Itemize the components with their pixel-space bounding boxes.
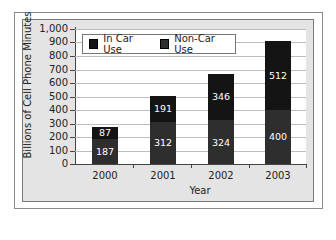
bar-2000: 87187 [92,127,118,164]
x-axis-title: Year [170,185,230,196]
legend: In Car Use Non-Car Use [82,34,236,54]
x-tick-label: 2000 [85,170,125,181]
legend-label-non-car: Non-Car Use [174,33,231,55]
x-tick [306,164,307,168]
legend-swatch-non-car [160,39,169,49]
y-axis-title: Billions of Cell Phone Minutes [22,29,33,159]
y-tick [70,110,75,111]
x-tick-label: 2003 [258,170,298,181]
y-tick [70,164,75,165]
bar-segment-in-car: 191 [150,96,176,122]
legend-label-in-car: In Car Use [103,33,150,55]
y-tick [70,42,75,43]
legend-item-in-car: In Car Use [89,33,150,55]
legend-item-non-car: Non-Car Use [160,33,231,55]
y-tick [70,124,75,125]
x-tick [191,164,192,168]
y-tick [70,151,75,152]
x-tick-label: 2001 [143,170,183,181]
y-tick [70,70,75,71]
x-tick-label: 2002 [201,170,241,181]
bar-2003: 512400 [265,41,291,164]
x-tick [249,164,250,168]
bar-segment-in-car: 87 [92,127,118,139]
gridline [75,29,306,30]
y-tick [70,97,75,98]
bar-segment-non-car: 312 [150,122,176,164]
x-tick [133,164,134,168]
y-tick [70,56,75,57]
legend-swatch-in-car [89,39,98,49]
y-tick [70,137,75,138]
bar-segment-non-car: 324 [208,120,234,164]
bar-segment-non-car: 400 [265,110,291,164]
y-tick-label: 0 [24,159,68,169]
bar-2001: 191312 [150,96,176,164]
y-tick [70,83,75,84]
bar-segment-in-car: 346 [208,74,234,121]
bar-segment-non-car: 187 [92,139,118,164]
bar-2002: 346324 [208,74,234,164]
y-tick [70,29,75,30]
y-axis-line [75,27,76,165]
bar-segment-in-car: 512 [265,41,291,110]
